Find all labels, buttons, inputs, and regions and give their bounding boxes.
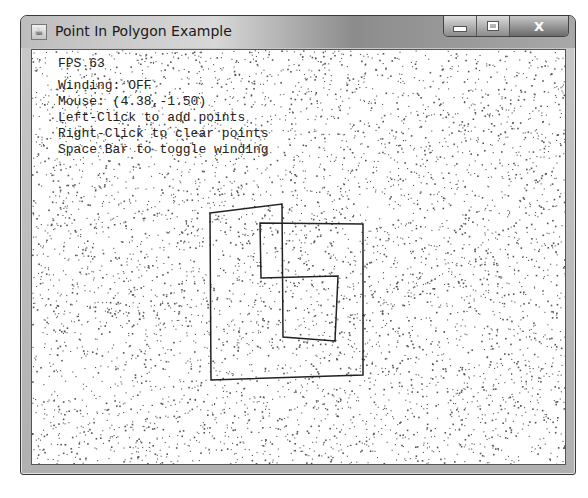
title-bar[interactable]: ☕ Point In Polygon Example X [21,16,575,48]
minimize-button[interactable] [444,16,477,36]
maximize-icon [488,22,498,30]
close-icon: X [534,19,544,34]
window-title: Point In Polygon Example [55,23,232,39]
drawing-canvas[interactable]: FPS 63 Winding: OFF Mouse: (4.38,-1.50) … [31,49,566,465]
app-window: ☕ Point In Polygon Example X FPS 63 Wind… [20,15,576,475]
close-button[interactable]: X [510,16,568,36]
polygon-layer [32,50,566,465]
polygon-shape [210,204,363,380]
minimize-icon [453,26,467,32]
java-cup-icon[interactable]: ☕ [31,24,47,40]
maximize-button[interactable] [477,16,510,36]
window-controls: X [443,16,569,37]
